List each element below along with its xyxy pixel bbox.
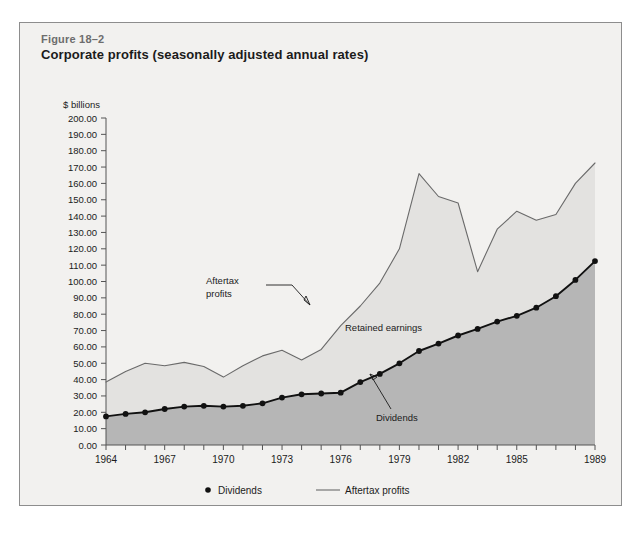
dividends-data-point: [436, 341, 442, 347]
dividends-data-point: [221, 404, 227, 410]
x-tick-label: 1989: [584, 454, 607, 465]
dividends-data-point: [514, 313, 520, 319]
y-tick-label: 130.00: [68, 227, 97, 238]
x-tick-label: 1976: [330, 454, 353, 465]
y-tick-label: 50.00: [73, 358, 97, 369]
y-tick-label: 90.00: [73, 292, 97, 303]
chart-areas: [106, 163, 595, 445]
y-tick-label: 100.00: [68, 276, 97, 287]
dividends-callout-label: Dividends: [376, 412, 418, 423]
legend-aftertax-label: Aftertax profits: [345, 485, 409, 496]
y-tick-label: 170.00: [68, 162, 97, 173]
y-tick-label: 40.00: [73, 374, 97, 385]
y-tick-label: 110.00: [69, 260, 97, 271]
x-tick-label: 1979: [388, 454, 411, 465]
dividends-data-point: [494, 319, 500, 325]
dividends-data-point: [397, 360, 403, 366]
dividends-data-point: [201, 403, 207, 409]
y-axis-tick-labels: 0.0010.0020.0030.0040.0050.0060.0070.008…: [68, 113, 97, 451]
dividends-data-point: [123, 411, 129, 417]
y-tick-label: 0.00: [79, 440, 98, 451]
y-axis-title: $ billions: [63, 99, 100, 110]
y-tick-label: 30.00: [73, 390, 97, 401]
aftertax-profits-callout-line1: Aftertax: [206, 275, 239, 286]
x-tick-label: 1964: [95, 454, 118, 465]
aftertax-profits-callout-line2: profits: [206, 288, 232, 299]
y-tick-label: 120.00: [68, 243, 97, 254]
y-axis-ticks: [101, 118, 106, 445]
figure-card: Figure 18–2 Corporate profits (seasonall…: [19, 22, 622, 506]
dividends-data-point: [162, 406, 168, 412]
y-tick-label: 140.00: [68, 211, 97, 222]
dividends-data-point: [533, 305, 539, 311]
dividends-data-point: [573, 277, 579, 283]
dividends-data-point: [416, 348, 422, 354]
aftertax-profits-arrowhead: [304, 296, 310, 305]
dividends-data-point: [279, 395, 285, 401]
dividends-data-point: [455, 333, 461, 339]
y-tick-label: 160.00: [68, 178, 97, 189]
dividends-data-point: [181, 404, 187, 410]
dividends-data-point: [103, 414, 109, 420]
x-tick-label: 1967: [154, 454, 177, 465]
dividends-data-point: [260, 400, 266, 406]
dividends-data-point: [377, 371, 383, 377]
x-tick-label: 1985: [506, 454, 529, 465]
x-tick-label: 1973: [271, 454, 294, 465]
corporate-profits-chart: 0.0010.0020.0030.0040.0050.0060.0070.008…: [20, 23, 623, 507]
y-tick-label: 190.00: [68, 129, 97, 140]
dividends-data-point: [318, 391, 324, 397]
x-tick-label: 1970: [212, 454, 235, 465]
x-tick-label: 1982: [447, 454, 470, 465]
chart-legend: Dividends Aftertax profits: [205, 485, 409, 496]
y-tick-label: 20.00: [73, 407, 97, 418]
y-tick-label: 10.00: [73, 423, 97, 434]
y-tick-label: 150.00: [68, 194, 97, 205]
dividends-data-point: [553, 293, 559, 299]
dividends-data-point: [142, 409, 148, 415]
dividends-data-point: [475, 326, 481, 332]
legend-dividends-label: Dividends: [218, 485, 262, 496]
retained-earnings-label: Retained earnings: [345, 322, 422, 333]
aftertax-profits-leader: [266, 285, 310, 305]
dividends-data-point: [338, 390, 344, 396]
y-tick-label: 180.00: [68, 145, 97, 156]
dividends-data-point: [299, 391, 305, 397]
y-tick-label: 70.00: [73, 325, 97, 336]
y-tick-label: 60.00: [73, 341, 97, 352]
dividends-data-point: [240, 403, 246, 409]
dividends-data-point: [592, 258, 598, 264]
x-axis-tick-labels: 196419671970197319761979198219851989: [95, 454, 607, 465]
y-tick-label: 80.00: [73, 309, 97, 320]
y-tick-label: 200.00: [68, 113, 97, 124]
x-axis-ticks: [106, 445, 595, 450]
chart-plot-area: 0.0010.0020.0030.0040.0050.0060.0070.008…: [20, 23, 623, 507]
dividends-data-point: [357, 379, 363, 385]
legend-dividends-marker: [205, 487, 211, 493]
